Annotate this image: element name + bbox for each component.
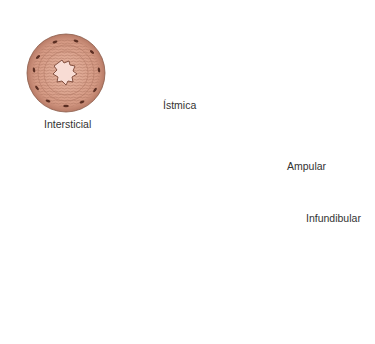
fallopian-tube-diagram [0,0,375,344]
label-ampular: Ampular [287,161,326,172]
cross-section-intersticial [27,34,105,112]
label-infundibular: Infundibular [306,213,361,224]
label-intersticial: Intersticial [44,119,91,130]
label-istmica: Ístmica [163,100,196,111]
